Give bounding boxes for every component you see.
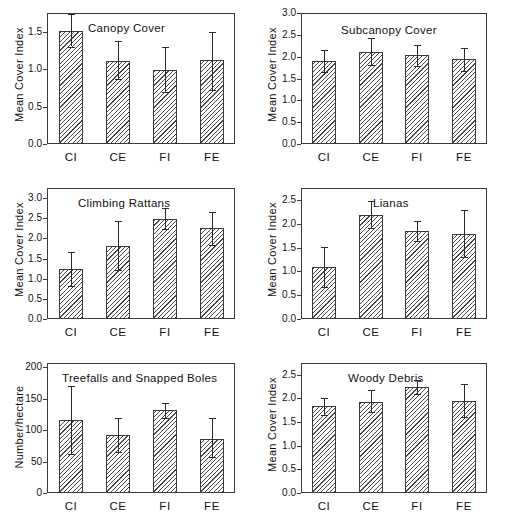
y-tick-mark (297, 493, 301, 494)
error-bar-cap-lower (162, 418, 169, 419)
error-bar-cap-lower (68, 286, 75, 287)
error-bar-line (165, 208, 166, 229)
error-bar-line (71, 14, 72, 46)
error-bar-cap-upper (209, 418, 216, 419)
y-tick-label: 2.5 (267, 370, 296, 380)
error-bar-cap-lower (414, 241, 421, 242)
error-bar-line (417, 380, 418, 394)
chart-panel: Mean Cover IndexSubcanopy Cover0.00.51.0… (253, 0, 505, 175)
y-tick-label: 1.5 (267, 417, 296, 427)
y-tick-mark (43, 493, 47, 494)
x-tick-label: CE (351, 326, 391, 338)
error-bar-line (464, 384, 465, 417)
x-tick-label: CE (351, 151, 391, 163)
error-bar-cap-upper (461, 384, 468, 385)
x-tick-label: FI (397, 326, 437, 338)
bar (405, 387, 429, 493)
bar (312, 406, 336, 493)
error-bar-cap-lower (414, 394, 421, 395)
y-tick-label: 1.0 (267, 95, 296, 105)
chart-panel: Mean Cover IndexLianas0.00.51.01.52.02.5… (253, 175, 505, 350)
error-bar-line (212, 212, 213, 245)
panel-title: Climbing Rattans (78, 197, 170, 209)
error-bar-line (165, 403, 166, 419)
error-bar-cap-upper (209, 212, 216, 213)
y-tick-label: 2.0 (267, 393, 296, 403)
bar (359, 402, 383, 493)
x-tick-label: CI (51, 500, 91, 512)
x-tick-label: FE (192, 500, 232, 512)
y-tick-label: 1.0 (267, 441, 296, 451)
y-tick-label: 2.0 (267, 52, 296, 62)
error-bar-cap-upper (209, 32, 216, 33)
error-bar-cap-lower (68, 47, 75, 48)
y-tick-label: 50 (13, 457, 42, 467)
error-bar-cap-upper (368, 390, 375, 391)
y-tick-mark (297, 319, 301, 320)
x-tick-label: FI (145, 326, 185, 338)
error-bar-cap-upper (461, 48, 468, 49)
y-tick-label: 0.0 (267, 139, 296, 149)
y-tick-label: 0.0 (13, 314, 42, 324)
error-bar-cap-lower (209, 457, 216, 458)
x-tick-label: CI (51, 326, 91, 338)
y-tick-label: 1.5 (13, 27, 42, 37)
x-tick-label: FI (145, 151, 185, 163)
y-axis-spine (47, 363, 48, 493)
error-bar-line (71, 386, 72, 454)
x-tick-label: FE (444, 326, 484, 338)
error-bar-cap-lower (209, 245, 216, 246)
y-tick-mark (297, 144, 301, 145)
x-tick-label: FE (192, 326, 232, 338)
error-bar-cap-lower (321, 415, 328, 416)
error-bar-cap-upper (115, 41, 122, 42)
figure-panel-grid: Mean Cover IndexCanopy Cover0.00.51.01.5… (0, 0, 505, 522)
error-bar-cap-lower (461, 257, 468, 258)
y-tick-label: 0.5 (267, 290, 296, 300)
bar (153, 410, 177, 493)
error-bar-line (371, 390, 372, 412)
chart-panel: Mean Cover IndexCanopy Cover0.00.51.01.5… (0, 0, 253, 175)
error-bar-cap-upper (321, 247, 328, 248)
y-tick-mark (43, 319, 47, 320)
error-bar-cap-lower (368, 65, 375, 66)
error-bar-cap-lower (321, 287, 328, 288)
error-bar-cap-lower (162, 92, 169, 93)
bar (405, 231, 429, 319)
x-tick-label: FI (145, 500, 185, 512)
panel-title: Treefalls and Snapped Boles (62, 372, 217, 384)
error-bar-cap-lower (115, 452, 122, 453)
error-bar-cap-lower (115, 79, 122, 80)
y-tick-label: 0.5 (267, 464, 296, 474)
chart-panel: Mean Cover IndexClimbing Rattans0.00.51.… (0, 175, 253, 350)
error-bar-cap-lower (461, 417, 468, 418)
y-axis-spine (301, 363, 302, 493)
error-bar-line (212, 32, 213, 90)
y-tick-label: 1.5 (267, 243, 296, 253)
x-tick-label: CE (98, 151, 138, 163)
y-tick-label: 150 (13, 394, 42, 404)
y-tick-label: 0.5 (13, 294, 42, 304)
error-bar-cap-upper (68, 386, 75, 387)
panel-title: Subcanopy Cover (341, 24, 437, 36)
error-bar-cap-lower (368, 412, 375, 413)
x-tick-label: FI (397, 151, 437, 163)
y-tick-label: 200 (13, 362, 42, 372)
error-bar-cap-upper (115, 221, 122, 222)
x-tick-label: CE (98, 500, 138, 512)
error-bar-cap-lower (368, 228, 375, 229)
error-bar-line (324, 398, 325, 414)
error-bar-cap-upper (68, 252, 75, 253)
error-bar-line (417, 221, 418, 241)
y-tick-label: 0.0 (13, 139, 42, 149)
bar (153, 219, 177, 319)
y-axis-spine (301, 188, 302, 319)
error-bar-line (324, 50, 325, 72)
x-tick-label: FE (444, 151, 484, 163)
x-tick-label: CI (51, 151, 91, 163)
y-tick-label: 2.0 (13, 233, 42, 243)
bar (405, 55, 429, 144)
x-tick-label: CE (98, 326, 138, 338)
error-bar-cap-upper (162, 403, 169, 404)
error-bar-cap-upper (368, 201, 375, 202)
